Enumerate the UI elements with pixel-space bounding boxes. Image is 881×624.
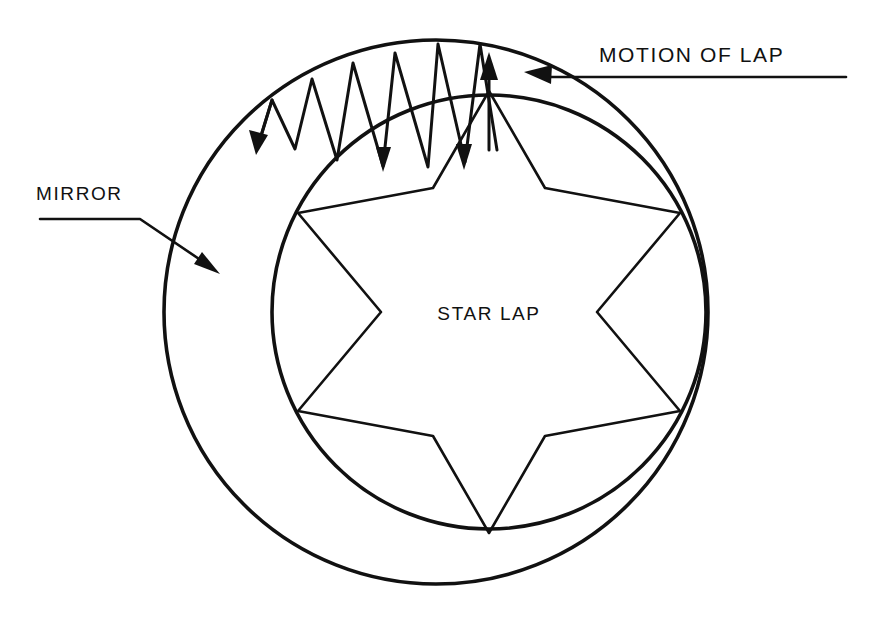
- stroke-arrow-down-b: [456, 144, 472, 170]
- stroke-arrow-down-left: [249, 100, 272, 155]
- star-lap-label: STAR LAP: [437, 303, 540, 324]
- mirror-leader-line: [40, 219, 220, 274]
- diagram-canvas: MIRROR MOTION OF LAP STAR LAP: [0, 0, 881, 624]
- motion-leader-line: [524, 65, 846, 84]
- motion-of-lap-label: MOTION OF LAP: [599, 43, 784, 66]
- mirror-label: MIRROR: [36, 183, 123, 204]
- stroke-arrow-down-a: [376, 147, 391, 172]
- star-lap-diagram: MIRROR MOTION OF LAP STAR LAP: [0, 0, 881, 624]
- outer-mirror-ring: [164, 40, 708, 584]
